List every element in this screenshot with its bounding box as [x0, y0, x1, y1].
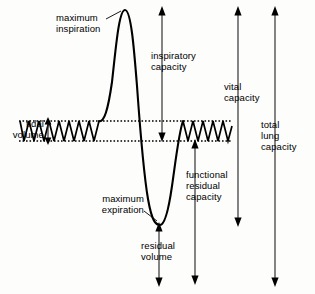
label-total-lung-capacity-line2: lung [261, 130, 297, 141]
maximum-inspiration-leader-line [106, 11, 121, 19]
label-inspiratory-capacity-line1: inspiratory [151, 50, 196, 61]
label-frc-line2: residual [186, 180, 228, 191]
tidal-oscillation-right [183, 121, 232, 141]
vital-capacity-arrowhead-down [234, 218, 241, 228]
label-maximum-inspiration-line2: inspiration [56, 23, 100, 34]
label-frc-line3: capacity [186, 191, 228, 202]
label-maximum-inspiration: maximum inspiration [56, 12, 100, 34]
label-total-lung-capacity: total lung capacity [261, 119, 297, 152]
label-inspiratory-capacity: inspiratory capacity [151, 50, 196, 72]
tidal-volume-arrow [45, 117, 52, 145]
label-maximum-expiration-line1: maximum [50, 193, 144, 204]
label-total-lung-capacity-line1: total [261, 119, 297, 130]
tidal-volume-arrowhead-down [45, 138, 52, 146]
label-functional-residual-capacity: functional residual capacity [186, 169, 228, 202]
label-residual-volume-line2: volume [141, 251, 175, 262]
label-tidal-volume-line2: volume [0, 129, 44, 140]
label-maximum-expiration: maximum expiration [50, 193, 144, 215]
label-vital-capacity-line1: vital [224, 81, 260, 92]
functional-residual-capacity-arrow [191, 139, 198, 285]
label-vital-capacity: vital capacity [224, 81, 260, 103]
inspiratory-capacity-arrowhead-up [158, 6, 165, 16]
label-frc-line1: functional [186, 169, 228, 180]
label-maximum-inspiration-line1: maximum [56, 12, 100, 23]
label-vital-capacity-line2: capacity [224, 92, 260, 103]
label-residual-volume: residual volume [141, 240, 175, 262]
label-tidal-volume: tidal volume [0, 118, 44, 140]
total-lung-capacity-arrowhead-up [271, 6, 278, 16]
residual-volume-arrowhead-down [155, 278, 162, 288]
lung-volumes-diagram: maximum inspiration tidal volume inspira… [0, 0, 315, 294]
total-lung-capacity-arrowhead-down [271, 278, 278, 288]
label-total-lung-capacity-line3: capacity [261, 141, 297, 152]
label-maximum-expiration-line2: expiration [50, 204, 144, 215]
vital-capacity-arrowhead-up [234, 6, 241, 16]
frc-arrowhead-down [191, 276, 198, 286]
label-inspiratory-capacity-line2: capacity [151, 61, 196, 72]
tidal-volume-arrowhead-up [45, 117, 52, 125]
label-residual-volume-line1: residual [141, 240, 175, 251]
vital-capacity-arrow [234, 6, 241, 227]
label-tidal-volume-line1: tidal [0, 118, 44, 129]
